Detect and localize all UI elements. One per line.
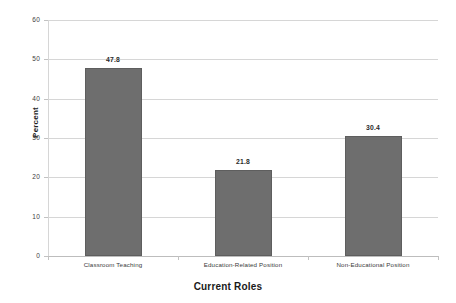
bar-value-label: 30.4 — [343, 125, 403, 132]
y-axis-title: Percent — [31, 78, 40, 168]
x-axis-category-label: Classroom Teaching — [48, 262, 178, 269]
bar — [85, 68, 142, 256]
y-axis-tick-label: 20 — [0, 174, 40, 181]
gridline — [48, 256, 438, 257]
bar — [215, 170, 272, 256]
bar-value-label: 21.8 — [213, 159, 273, 166]
bar-chart: Percent 0102030405060 47.821.830.4 Class… — [0, 0, 456, 303]
y-axis-tick-label: 0 — [0, 253, 40, 260]
gridline — [48, 20, 438, 21]
x-axis-tick — [438, 256, 439, 260]
x-axis-category-label: Non-Educational Position — [308, 262, 438, 269]
x-axis-tick — [48, 256, 49, 260]
y-axis-tick-label: 40 — [0, 96, 40, 103]
bar-value-label: 47.8 — [83, 57, 143, 64]
bar — [345, 136, 402, 256]
x-axis-tick — [178, 256, 179, 260]
x-axis-category-label: Education-Related Position — [178, 262, 308, 269]
y-axis-tick-label: 50 — [0, 56, 40, 63]
x-axis-tick — [308, 256, 309, 260]
y-axis-tick-label: 60 — [0, 17, 40, 24]
x-axis-title: Current Roles — [0, 281, 456, 292]
y-axis-tick-label: 30 — [0, 135, 40, 142]
y-axis-tick-label: 10 — [0, 214, 40, 221]
